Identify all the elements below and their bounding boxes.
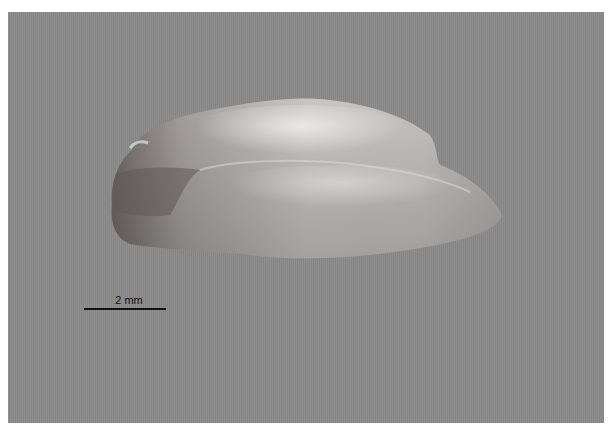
specimen-shell [8, 12, 604, 423]
scale-bar-line [84, 308, 166, 310]
scale-bar: 2 mm [84, 294, 174, 314]
scale-bar-label: 2 mm [84, 294, 174, 306]
specimen-photo-panel [8, 12, 604, 423]
